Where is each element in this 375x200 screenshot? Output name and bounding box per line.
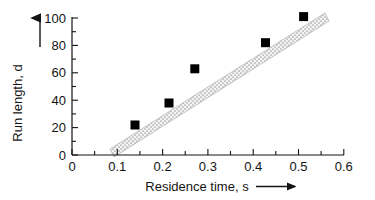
y-axis-title-group: Run length, d	[10, 18, 40, 142]
x-tick-label: 0.2	[154, 159, 172, 174]
x-axis-title-group: Residence time, s	[145, 179, 295, 194]
y-tick-label: 80	[52, 38, 66, 53]
x-tick-label: 0.6	[335, 159, 353, 174]
y-tick-label: 60	[52, 65, 66, 80]
x-tick-label: 0.5	[289, 159, 307, 174]
data-point	[190, 64, 199, 73]
x-tick-label: 0	[68, 159, 75, 174]
scatter-plot: 0 20 40 60 80 100 0 0.1 0.2 0.3 0.4 0.5 …	[0, 0, 375, 200]
x-tick-label: 0.4	[244, 159, 262, 174]
chart-figure: 0 20 40 60 80 100 0 0.1 0.2 0.3 0.4 0.5 …	[0, 0, 375, 200]
y-tick-label: 20	[52, 120, 66, 135]
y-tick-labels: 0 20 40 60 80 100	[44, 11, 66, 163]
data-point	[299, 12, 308, 21]
y-axis-title: Run length, d	[10, 64, 25, 141]
x-tick-label: 0.1	[108, 159, 126, 174]
data-series-markers	[131, 12, 309, 129]
data-point	[165, 99, 174, 108]
x-tick-label: 0.3	[199, 159, 217, 174]
y-axis-ticks	[72, 18, 78, 155]
correlation-band	[110, 13, 329, 157]
y-tick-label: 40	[52, 93, 66, 108]
data-point	[131, 121, 140, 130]
y-tick-label: 0	[59, 148, 66, 163]
y-tick-label: 100	[44, 11, 66, 26]
data-point	[261, 38, 270, 47]
x-axis-title: Residence time, s	[145, 179, 249, 194]
x-tick-labels: 0 0.1 0.2 0.3 0.4 0.5 0.6	[68, 159, 352, 174]
